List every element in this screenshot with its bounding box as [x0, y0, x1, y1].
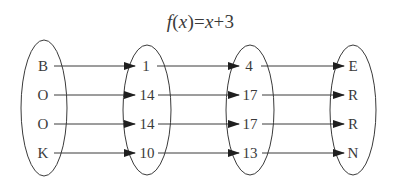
set-item: 1 — [142, 58, 150, 74]
set-item: N — [348, 145, 359, 161]
set-item: 4 — [245, 58, 253, 74]
set-item: R — [348, 116, 358, 132]
arrows-shifted-to-encoded — [261, 66, 344, 153]
set-item: O — [38, 116, 49, 132]
arrows-numbers-to-shifted — [157, 66, 239, 153]
diagram-canvas: B O O K 1 14 14 10 4 17 17 13 — [0, 0, 401, 189]
set-item: O — [38, 87, 49, 103]
set-labels-encoded-letters: E R R N — [348, 58, 359, 161]
set-labels-numbers: 1 14 14 10 — [136, 58, 157, 161]
set-item: 10 — [140, 145, 155, 161]
set-item: 13 — [243, 145, 258, 161]
set-item: 14 — [140, 116, 156, 132]
set-item: 14 — [140, 87, 156, 103]
set-item: R — [348, 87, 358, 103]
set-item: E — [348, 58, 357, 74]
set-item: B — [38, 58, 48, 74]
set-item: 17 — [243, 116, 259, 132]
function-mapping-diagram: f(x)=x+3 — [0, 0, 401, 189]
set-item: 17 — [243, 87, 259, 103]
set-labels-shifted-numbers: 4 17 17 13 — [240, 58, 261, 161]
set-labels-letters: B O O K — [38, 58, 49, 161]
set-item: K — [38, 145, 49, 161]
